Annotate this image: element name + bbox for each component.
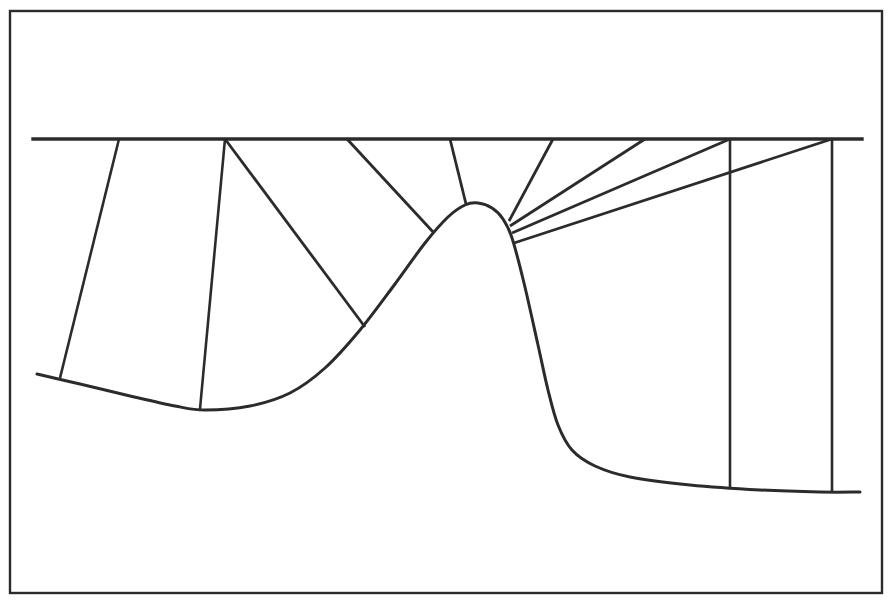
ray-3 <box>450 139 466 204</box>
drop-line-group <box>60 139 832 492</box>
drop-2 <box>200 139 225 409</box>
ray-1 <box>225 139 365 327</box>
outer-border-frame <box>10 11 882 593</box>
ray-7 <box>514 139 832 243</box>
line-diagram <box>0 0 892 605</box>
ray-2 <box>347 139 434 233</box>
drop-1 <box>60 139 119 378</box>
figure-canvas <box>0 0 892 605</box>
terrain-profile-curve <box>37 203 860 492</box>
ray-4 <box>509 139 553 221</box>
